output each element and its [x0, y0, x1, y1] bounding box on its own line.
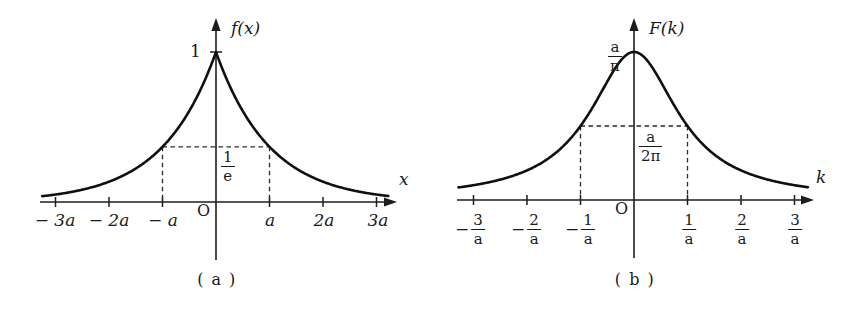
y-axis-arrow-icon — [629, 18, 638, 31]
y-axis-arrow-icon — [211, 18, 220, 31]
panel-b-peak-numerator: a — [608, 39, 622, 57]
panel-b-tick-label-4: 2 a — [733, 212, 749, 247]
panel-b-tick-den-4: a — [735, 230, 749, 247]
panel-a-tick-label-0: − 3a — [35, 212, 76, 229]
panel-b-tick-label-2: − 1 a — [565, 212, 595, 247]
panel-b-tick-sign-0: − — [455, 221, 469, 238]
panel-b-tick-num-1: 2 — [527, 212, 541, 230]
panel-b-tick-den-3: a — [682, 230, 696, 247]
panel-a-plot — [0, 0, 424, 310]
panel-b-tick-den-1: a — [527, 230, 541, 247]
panel-a-caption: ( a ) — [197, 272, 237, 288]
panel-b-x-axis-label: k — [816, 169, 826, 186]
panel-b-tick-sign-1: − — [511, 221, 525, 238]
panel-a-tick-label-3: a — [265, 212, 275, 229]
panel-b-tick-sign-2: − — [565, 221, 579, 238]
panel-a-x-axis-label: x — [399, 171, 409, 188]
panel-a-y-axis-label: f(x) — [231, 20, 260, 37]
panel-b-tick-label-5: 3 a — [786, 212, 802, 247]
panel-b-tick-label-3: 1 a — [680, 212, 696, 247]
panel-b-plot — [424, 0, 847, 310]
panel-b-tick-num-2: 1 — [581, 212, 595, 230]
figure-container: f(x) x 1 O 1 e − 3a − 2a − a a 2a 3a ( a… — [0, 0, 847, 310]
panel-b-tick-den-2: a — [581, 230, 595, 247]
panel-b-level-value-label: a 2π — [639, 129, 662, 164]
panel-b-peak-denominator: π — [608, 57, 622, 74]
panel-a-tick-label-4: 2a — [314, 212, 335, 229]
panel-a-origin-label: O — [197, 203, 210, 219]
panel-b-tick-label-0: − 3 a — [455, 212, 485, 247]
panel-a: f(x) x 1 O 1 e − 3a − 2a − a a 2a 3a ( a… — [0, 0, 424, 310]
panel-a-level-denominator: e — [221, 167, 235, 184]
panel-b: F(k) k O a π a 2π − 3 a — [424, 0, 847, 310]
panel-b-origin-label: O — [615, 201, 628, 217]
panel-a-peak-value-label: 1 — [190, 43, 201, 60]
panel-b-y-axis-label: F(k) — [649, 20, 684, 37]
panel-b-tick-den-5: a — [788, 230, 802, 247]
panel-b-tick-num-4: 2 — [735, 212, 749, 230]
panel-b-tick-den-0: a — [471, 230, 485, 247]
panel-b-tick-num-5: 3 — [788, 212, 802, 230]
panel-b-tick-num-0: 3 — [471, 212, 485, 230]
panel-b-tick-label-1: − 2 a — [511, 212, 541, 247]
panel-a-level-numerator: 1 — [221, 149, 235, 167]
panel-b-level-numerator: a — [639, 129, 662, 147]
panel-b-level-denominator: 2π — [639, 147, 662, 164]
panel-a-tick-label-1: − 2a — [89, 212, 130, 229]
panel-a-tick-label-2: − a — [148, 212, 178, 229]
panel-b-tick-num-3: 1 — [682, 212, 696, 230]
panel-a-tick-label-5: 3a — [368, 212, 389, 229]
x-axis-arrow-icon — [384, 197, 397, 206]
panel-b-caption: ( b ) — [615, 272, 655, 288]
panel-a-level-value-label: 1 e — [221, 149, 235, 184]
panel-b-peak-value-label: a π — [608, 39, 622, 74]
x-axis-arrow-icon — [801, 195, 814, 204]
